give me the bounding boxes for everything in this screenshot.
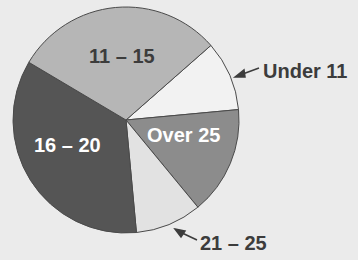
- pie-slices: [13, 7, 239, 233]
- arrow-21-25-head: [175, 229, 185, 237]
- arrow-under11-head: [235, 70, 245, 77]
- pie-chart: 11 – 15 16 – 20 Over 25 Under 11 21 – 25: [0, 0, 358, 260]
- pie-chart-svg: 11 – 15 16 – 20 Over 25 Under 11 21 – 25: [0, 0, 358, 260]
- label-under-11: Under 11: [263, 60, 347, 82]
- label-over-25: Over 25: [147, 124, 220, 146]
- label-16-20: 16 – 20: [34, 134, 101, 156]
- label-11-15: 11 – 15: [89, 45, 155, 67]
- label-21-25: 21 – 25: [200, 232, 267, 254]
